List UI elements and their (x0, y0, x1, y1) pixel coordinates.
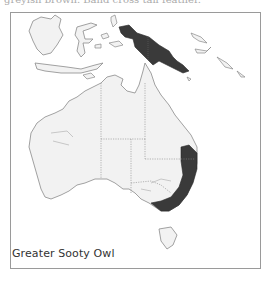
australia (29, 63, 197, 211)
cutoff-caption-text: greyish brown. Band cross tail feather. (4, 0, 201, 5)
tasmania (159, 227, 177, 249)
sulawesi (75, 23, 97, 57)
java-sunda (35, 63, 103, 73)
borneo (29, 15, 63, 55)
distribution-map (11, 13, 262, 270)
species-label: Greater Sooty Owl (12, 247, 115, 260)
new-guinea-range (119, 25, 189, 73)
map-frame (10, 12, 261, 269)
